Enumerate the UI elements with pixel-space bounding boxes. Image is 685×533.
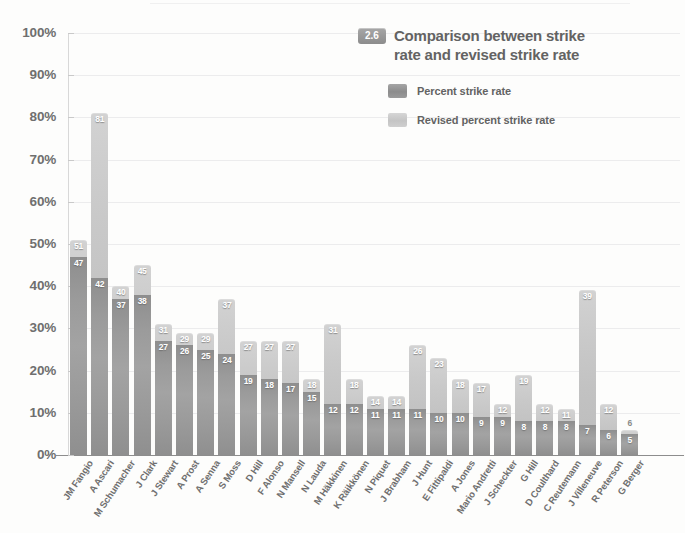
legend-item-revised: Revised percent strike rate — [388, 113, 685, 127]
legend-swatch-revised-icon — [388, 113, 407, 127]
bar-value-revised: 26 — [409, 347, 426, 356]
bar-value-percent: 19 — [240, 377, 257, 386]
bar-value-revised: 11 — [558, 411, 575, 420]
bar-segment-percent — [176, 345, 193, 455]
legend-item-percent: Percent strike rate — [388, 84, 685, 98]
bar-value-revised: 23 — [430, 360, 447, 369]
bar-segment-percent — [91, 278, 108, 455]
bar-segment-percent — [70, 257, 87, 455]
bar-value-percent: 10 — [452, 415, 469, 424]
page-title: Comparison between strike rate and revis… — [394, 26, 585, 64]
bar-value-revised: 17 — [473, 385, 490, 394]
bar-value-revised: 12 — [600, 406, 617, 415]
bar-value-revised: 29 — [176, 335, 193, 344]
bar-segment-percent — [197, 350, 214, 456]
bar-value-revised: 18 — [303, 381, 320, 390]
bar-value-percent: 8 — [536, 423, 553, 432]
bar-value-percent: 11 — [409, 411, 426, 420]
bar-value-revised: 27 — [282, 343, 299, 352]
y-axis-tick-80: 80% — [0, 109, 56, 124]
bar-value-percent: 9 — [494, 419, 511, 428]
bar-segment-percent — [218, 354, 235, 455]
legend-label-revised: Revised percent strike rate — [417, 114, 555, 126]
bar-segment-percent — [112, 299, 129, 455]
bar-value-percent: 47 — [70, 259, 87, 268]
bar-value-percent: 7 — [579, 427, 596, 436]
bar-value-percent: 11 — [388, 411, 405, 420]
bar-segment-percent — [240, 375, 257, 455]
bar-value-percent: 10 — [430, 415, 447, 424]
bar-value-revised: 51 — [70, 242, 87, 251]
chart-root: 0%10%20%30%40%50%60%70%80%90%100% 514781… — [0, 0, 685, 533]
bar-value-percent: 5 — [621, 436, 638, 445]
bar-value-revised: 31 — [155, 326, 172, 335]
chart-legend: Percent strike rate Revised percent stri… — [388, 84, 685, 142]
bar-value-revised: 29 — [197, 335, 214, 344]
bar-value-percent: 12 — [324, 406, 341, 415]
legend-swatch-percent-icon — [388, 84, 407, 98]
y-axis-tick-50: 50% — [0, 236, 56, 251]
bar-value-revised: 37 — [218, 301, 235, 310]
bar-value-percent: 37 — [112, 301, 129, 310]
bar-value-percent: 9 — [473, 419, 490, 428]
y-axis-tick-10: 10% — [0, 405, 56, 420]
chart-title-block: 2.6 Comparison between strike rate and r… — [358, 26, 680, 64]
bar-value-percent: 26 — [176, 347, 193, 356]
x-axis-label-text: JM Fangio — [60, 458, 95, 502]
bar-value-percent: 15 — [303, 394, 320, 403]
bar-segment-percent — [155, 341, 172, 455]
bar-value-revised: 27 — [261, 343, 278, 352]
section-number-badge: 2.6 — [358, 28, 386, 44]
bar-value-revised: 81 — [91, 115, 108, 124]
y-axis-tick-40: 40% — [0, 278, 56, 293]
bar-value-percent: 18 — [261, 381, 278, 390]
bar-value-percent: 12 — [346, 406, 363, 415]
y-axis-tick-20: 20% — [0, 363, 56, 378]
y-axis-tick-0: 0% — [0, 447, 56, 462]
legend-label-percent: Percent strike rate — [417, 85, 511, 97]
bar-value-percent: 6 — [600, 432, 617, 441]
x-axis-category-labels: JM FangioA AscariM SchumacherJ ClarkJ St… — [68, 458, 680, 533]
bar-value-percent: 27 — [155, 343, 172, 352]
bar-value-revised: 40 — [112, 288, 129, 297]
y-axis-tick-100: 100% — [0, 25, 56, 40]
x-axis-line — [56, 455, 684, 456]
bar-value-percent: 8 — [558, 423, 575, 432]
x-axis-label: JM Fangio — [60, 458, 95, 502]
bar-value-revised: 14 — [388, 398, 405, 407]
chart-title-line-1: Comparison between strike — [394, 27, 585, 44]
bar-value-revised: 18 — [346, 381, 363, 390]
bar-value-percent: 42 — [91, 280, 108, 289]
bar-value-revised: 27 — [240, 343, 257, 352]
bar-value-revised: 12 — [536, 406, 553, 415]
bar-value-percent: 24 — [218, 356, 235, 365]
chart-title-line-2: rate and revised strike rate — [394, 46, 579, 63]
bar-segment-percent — [261, 379, 278, 455]
y-axis-tick-30: 30% — [0, 320, 56, 335]
y-axis-tick-mark — [68, 455, 74, 456]
bar-value-revised: 39 — [579, 292, 596, 301]
bar-value-percent: 11 — [367, 411, 384, 420]
bar-value-percent: 38 — [134, 297, 151, 306]
bar-value-revised: 12 — [494, 406, 511, 415]
bar-value-percent: 25 — [197, 352, 214, 361]
bar-value-revised: 45 — [134, 267, 151, 276]
bar-value-revised: 19 — [515, 377, 532, 386]
bar-segment-percent — [134, 295, 151, 455]
y-axis-tick-70: 70% — [0, 152, 56, 167]
bar-value-revised: 31 — [324, 326, 341, 335]
bar-value-percent: 17 — [282, 385, 299, 394]
bar-value-revised: 6 — [621, 419, 638, 428]
y-axis-tick-90: 90% — [0, 67, 56, 82]
y-axis-tick-60: 60% — [0, 194, 56, 209]
bar-value-percent: 8 — [515, 423, 532, 432]
bar-value-revised: 14 — [367, 398, 384, 407]
bar-value-revised: 18 — [452, 381, 469, 390]
top-divider — [150, 3, 630, 4]
